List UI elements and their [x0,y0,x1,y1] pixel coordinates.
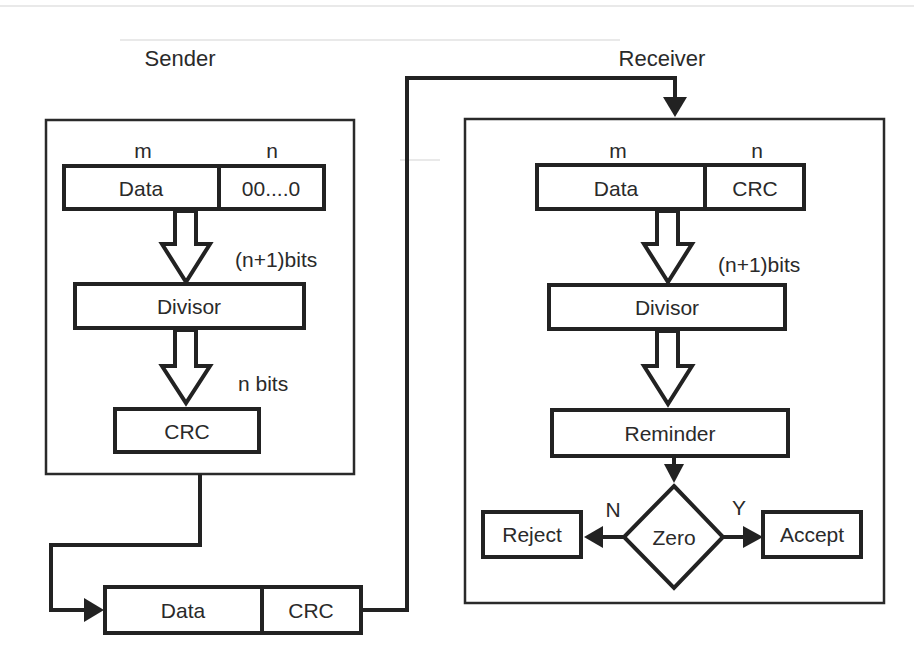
arrow-down-icon [663,97,687,117]
sender-n-plus-1-bits-label: (n+1)bits [235,248,317,271]
sender-crc-text: CRC [164,420,210,443]
sender-data-row: Data 00....0 [64,166,324,209]
no-branch-label: N [605,498,620,521]
reject-text: Reject [502,523,562,546]
arrow-right-icon [84,598,104,622]
arrow-left-icon [584,526,603,548]
hollow-down-arrow-icon [644,211,692,282]
hollow-down-arrow-icon [644,331,692,404]
sender-section: Sender m n Data 00....0 (n+1)bits Diviso… [46,46,354,474]
hollow-down-arrow-icon [162,211,210,282]
accept-text: Accept [780,523,844,546]
receiver-data-row: Data CRC [537,165,804,209]
arrow-right-icon [743,526,763,548]
receiver-label: Receiver [619,46,706,71]
receiver-n-plus-1-bits-label: (n+1)bits [718,253,800,276]
sender-n-label: n [266,139,278,162]
sender-m-label: m [134,139,152,162]
receiver-data-text: Data [594,177,639,200]
transmitted-crc-text: CRC [288,599,334,622]
transmitted-data-text: Data [161,599,206,622]
receiver-remainder-text: Reminder [624,422,715,445]
yes-branch-label: Y [732,496,746,519]
sender-data-text: Data [119,177,164,200]
hollow-down-arrow-icon [162,330,210,403]
receiver-m-label: m [609,139,627,162]
receiver-n-label: n [751,139,763,162]
background-texture [0,6,914,160]
receiver-divisor-text: Divisor [635,296,699,319]
decision-text: Zero [652,526,695,549]
receiver-section: Receiver m n Data CRC (n+1)bits Divisor … [465,46,884,603]
transmitted-frame: Data CRC [105,587,361,633]
receiver-crc-text: CRC [732,177,778,200]
sender-divisor-text: Divisor [157,295,221,318]
arrow-down-icon [664,464,684,483]
sender-padding-text: 00....0 [242,177,300,200]
crc-diagram: Sender m n Data 00....0 (n+1)bits Diviso… [0,0,914,657]
sender-label: Sender [145,46,216,71]
sender-n-bits-label: n bits [238,372,288,395]
